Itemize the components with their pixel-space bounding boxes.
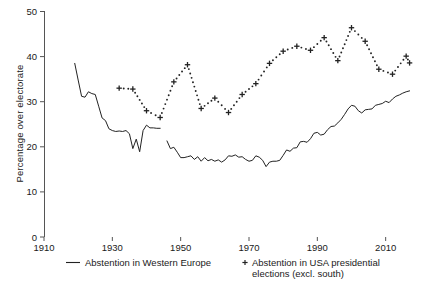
series-dot	[171, 85, 173, 87]
series-dot	[178, 74, 180, 76]
series-dot	[217, 101, 219, 103]
series-dot	[166, 99, 168, 101]
legend-label-western-europe: Abstention in Western Europe	[85, 257, 211, 268]
series-dot	[238, 97, 240, 99]
series-dot	[345, 39, 347, 41]
series-dot	[300, 47, 302, 49]
series-dot	[134, 92, 136, 94]
series-dot	[139, 99, 141, 101]
series-dot	[136, 95, 138, 97]
series-dot	[230, 108, 232, 110]
series-dot	[163, 108, 165, 110]
series-dot	[305, 48, 307, 50]
series-dot	[221, 104, 223, 106]
series-dot	[164, 103, 166, 105]
series-dot	[320, 40, 322, 42]
y-tick-label: 0	[32, 232, 37, 243]
series-dot	[184, 67, 186, 69]
series-dot	[188, 68, 190, 70]
series-dot	[204, 105, 206, 107]
series-dot	[141, 103, 143, 105]
series-dot	[236, 101, 238, 103]
series-dot	[224, 108, 226, 110]
series-dot	[195, 90, 197, 92]
series-dot	[349, 31, 351, 33]
series-dot	[370, 52, 372, 54]
series-dot	[400, 62, 402, 64]
series-dot	[342, 47, 344, 49]
series-dot	[357, 34, 359, 36]
series-dot	[155, 114, 157, 116]
series-dot	[397, 66, 399, 68]
data-series-layer	[75, 25, 413, 167]
series-dot	[407, 59, 409, 61]
series-dot	[266, 66, 268, 68]
series-dot	[233, 104, 235, 106]
series-dot	[143, 106, 145, 108]
series-line	[75, 63, 160, 151]
series-dot	[330, 48, 332, 50]
series-1	[167, 91, 410, 167]
series-dot	[207, 102, 209, 104]
legend-label-usa-line1: Abstention in USA presidential	[252, 257, 380, 268]
series-dot	[192, 81, 194, 83]
series-dot	[328, 44, 330, 46]
series-dot	[258, 79, 260, 81]
series-dot	[248, 88, 250, 90]
series-dot	[272, 59, 274, 61]
series-dot	[127, 88, 129, 90]
x-tick-label: 1950	[170, 242, 191, 253]
series-dot	[169, 90, 171, 92]
series-dot	[275, 56, 277, 58]
series-dot	[176, 77, 178, 79]
x-tick-label: 1990	[307, 242, 328, 253]
series-dot	[197, 99, 199, 101]
series-dot	[313, 46, 315, 48]
x-tick-label: 1970	[238, 242, 259, 253]
series-dot	[335, 56, 337, 58]
x-tick-label: 2010	[375, 242, 396, 253]
series-dot	[354, 30, 356, 32]
series-dot	[196, 94, 198, 96]
series-dot	[181, 71, 183, 73]
series-dot	[382, 70, 384, 72]
y-axis-tick-group: 01020304050	[26, 6, 44, 243]
series-dot	[191, 77, 193, 79]
series-dot	[339, 56, 341, 58]
series-dot	[245, 91, 247, 93]
y-tick-label: 50	[26, 6, 37, 17]
chart-legend: Abstention in Western EuropeAbstention i…	[66, 257, 380, 279]
x-tick-label: 1930	[102, 242, 123, 253]
series-0	[75, 63, 160, 151]
series-dot	[347, 35, 349, 37]
series-dot	[291, 47, 293, 49]
x-tick-label: 1910	[33, 242, 54, 253]
series-dot	[394, 70, 396, 72]
chart-plot-area: 01020304050 191019301950197019902010 Abs…	[0, 0, 427, 294]
series-dot	[332, 52, 334, 54]
series-dot	[199, 103, 201, 105]
series-dot	[344, 43, 346, 45]
y-tick-label: 20	[26, 141, 37, 152]
series-dot	[150, 112, 152, 114]
series-dot	[387, 72, 389, 74]
series-dot	[376, 64, 378, 66]
series-dot	[161, 112, 163, 114]
legend-label-usa-line2: elections (excl. south)	[252, 268, 344, 279]
series-line	[167, 91, 410, 167]
series-dot	[325, 41, 327, 43]
series-dot	[168, 94, 170, 96]
series-dot	[287, 49, 289, 51]
series-dot	[260, 75, 262, 77]
chart-figure: Percentage over electorate 01020304050 1…	[0, 0, 427, 294]
series-dot	[279, 53, 281, 55]
series-dot	[374, 60, 376, 62]
y-tick-label: 40	[26, 51, 37, 62]
x-axis-tick-group: 191019301950197019902010	[33, 237, 396, 253]
series-dot	[368, 48, 370, 50]
series-dot	[193, 86, 195, 88]
series-dot	[340, 51, 342, 53]
series-dot	[361, 37, 363, 39]
series-dot	[189, 73, 191, 75]
series-dot	[263, 71, 265, 73]
